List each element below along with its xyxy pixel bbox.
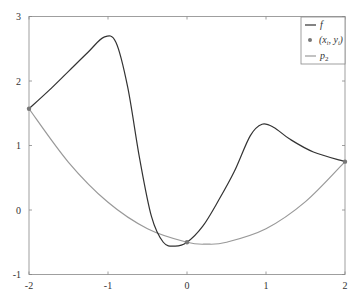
y-tick-label: 0 (16, 205, 21, 216)
y-tick-label: 2 (16, 76, 21, 87)
x-tick-label: 2 (343, 280, 348, 291)
legend: f (xi, yi) p2 (301, 17, 345, 64)
data-point-marker (27, 107, 31, 111)
axis-ticks (29, 17, 345, 275)
series-lines (27, 36, 347, 246)
series-f-line (29, 36, 345, 246)
data-point-marker (185, 240, 189, 244)
x-tick-label: -2 (25, 280, 33, 291)
data-point-marker (343, 159, 347, 163)
tick-labels: -2-1012-10123 (13, 11, 348, 291)
series-p2-line (29, 109, 345, 245)
chart: -2-1012-10123 f (xi, yi) p2 (0, 0, 362, 302)
x-tick-label: -1 (104, 280, 112, 291)
y-tick-label: 1 (16, 140, 21, 151)
x-tick-label: 0 (185, 280, 190, 291)
plot-area (29, 17, 345, 275)
y-tick-label: -1 (13, 269, 21, 280)
y-tick-label: 3 (16, 11, 21, 22)
legend-points-label: (xi, yi) (319, 34, 344, 46)
legend-points-swatch (308, 38, 312, 42)
x-tick-label: 1 (264, 280, 269, 291)
